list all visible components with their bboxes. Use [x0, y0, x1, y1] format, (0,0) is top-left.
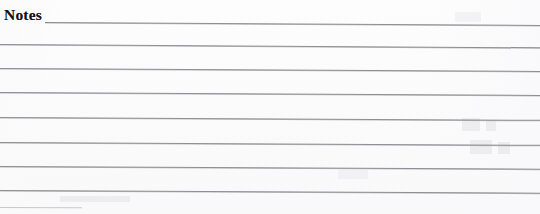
scan-bleed-artifact [60, 196, 130, 202]
note-line[interactable] [0, 92, 540, 96]
note-line[interactable] [0, 190, 540, 194]
note-line[interactable] [0, 44, 540, 48]
notes-section-label: Notes [4, 7, 42, 23]
scan-bleed-artifact [470, 140, 492, 154]
scan-bleed-artifact [455, 12, 481, 22]
notes-page: Notes [0, 0, 540, 214]
scan-bleed-artifact [486, 120, 496, 131]
scan-bleed-artifact [338, 170, 368, 179]
note-line[interactable] [0, 142, 540, 146]
paper-texture [0, 0, 540, 214]
note-line[interactable] [45, 22, 540, 26]
note-line[interactable] [0, 68, 540, 72]
note-line[interactable] [0, 166, 540, 170]
note-line[interactable] [0, 207, 82, 208]
note-line[interactable] [0, 117, 540, 121]
